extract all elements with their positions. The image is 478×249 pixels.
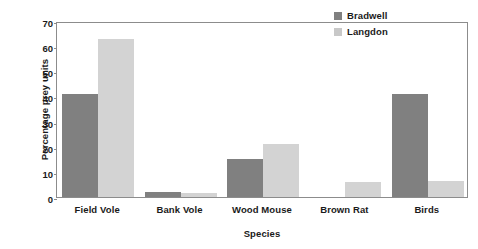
y-axis-tick-label: 0 — [1, 194, 53, 205]
bar-chart: Percentage prey units 010203040506070 Fi… — [0, 0, 478, 249]
bar — [392, 94, 428, 197]
bar-group — [304, 23, 386, 197]
bar — [345, 182, 381, 197]
bar-group — [387, 23, 469, 197]
y-axis-tick-mark — [54, 199, 57, 200]
y-axis-tick-label: 70 — [1, 18, 53, 29]
legend-label: Langdon — [347, 26, 388, 37]
bar-group — [57, 23, 139, 197]
bar — [145, 192, 181, 197]
plot-area: 010203040506070 — [56, 22, 468, 198]
x-axis-label: Wood Mouse — [221, 204, 303, 215]
y-axis-tick-label: 40 — [1, 93, 53, 104]
x-axis-label: Field Vole — [56, 204, 138, 215]
x-axis-label: Brown Rat — [303, 204, 385, 215]
bar — [263, 144, 299, 197]
x-axis-label: Bank Vole — [138, 204, 220, 215]
chart-legend: BradwellLangdon — [334, 10, 388, 37]
y-axis-tick-label: 10 — [1, 168, 53, 179]
legend-swatch-icon — [334, 12, 342, 20]
y-axis-tick-label: 50 — [1, 68, 53, 79]
y-axis-tick-label: 30 — [1, 118, 53, 129]
bar — [62, 94, 98, 197]
legend-label: Bradwell — [347, 10, 387, 21]
bar — [428, 181, 464, 197]
y-axis-tick-label: 20 — [1, 143, 53, 154]
legend-swatch-icon — [334, 28, 342, 36]
bar — [98, 39, 134, 197]
y-axis-tick-label: 60 — [1, 43, 53, 54]
legend-item: Langdon — [334, 26, 388, 37]
x-axis-label: Birds — [386, 204, 468, 215]
bars-layer — [57, 23, 467, 197]
bar — [181, 193, 217, 197]
bar-group — [222, 23, 304, 197]
legend-item: Bradwell — [334, 10, 388, 21]
x-axis-title: Species — [56, 228, 468, 239]
bar — [227, 159, 263, 197]
bar-group — [139, 23, 221, 197]
